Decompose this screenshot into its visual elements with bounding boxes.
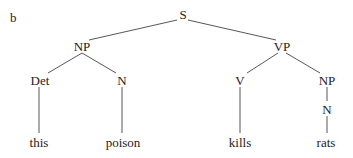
tree-node-v: V bbox=[235, 74, 244, 87]
tree-edge bbox=[188, 20, 276, 40]
tree-edge bbox=[82, 53, 116, 73]
tree-node-np2: NP bbox=[319, 74, 336, 87]
tree-edge bbox=[89, 20, 177, 40]
tree-node-det: Det bbox=[31, 74, 50, 87]
parse-tree-figure: b SNPVPDetNVNPNthispoisonkillsrats bbox=[0, 0, 353, 158]
tree-node-n2: N bbox=[322, 103, 331, 116]
tree-edge bbox=[286, 53, 320, 73]
word-leaf: rats bbox=[317, 136, 336, 149]
tree-edge bbox=[247, 53, 278, 73]
word-leaf: poison bbox=[106, 136, 141, 149]
tree-edges bbox=[0, 0, 353, 158]
tree-node-s: S bbox=[179, 8, 186, 21]
word-leaf: this bbox=[30, 136, 49, 149]
tree-edge bbox=[48, 53, 82, 73]
word-leaf: kills bbox=[229, 136, 251, 149]
tree-node-vp: VP bbox=[274, 40, 291, 53]
tree-node-np1: NP bbox=[74, 40, 91, 53]
tree-node-n1: N bbox=[117, 74, 126, 87]
